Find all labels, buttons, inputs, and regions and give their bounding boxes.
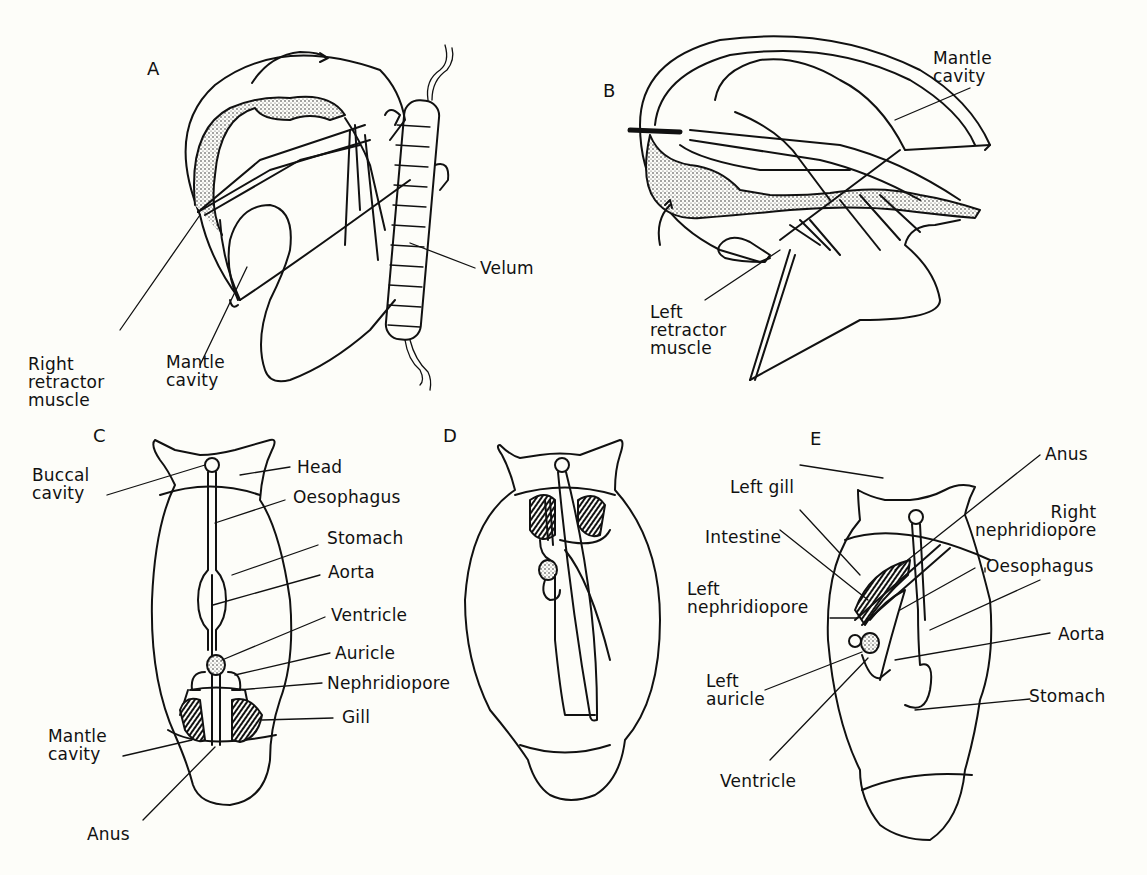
panel-d-drawing [465,440,660,800]
label-c-buccal-cavity: Buccal cavity [32,466,89,502]
label-e-left-gill: Left gill [730,478,794,496]
label-c-ventricle: Ventricle [331,606,407,624]
diagram-artwork [0,0,1147,875]
label-a-mantle-cavity: Mantle cavity [166,353,225,389]
label-e-right-nephridiopore: Right nephridiopore [975,503,1096,539]
label-e-aorta: Aorta [1058,625,1105,643]
label-a-velum: Velum [480,259,534,277]
label-c-head: Head [297,458,342,476]
label-c-oesophagus: Oesophagus [293,488,401,506]
label-e-ventricle: Ventricle [720,772,796,790]
label-e-intestine: Intestine [705,528,781,546]
label-e-anus: Anus [1045,445,1088,463]
label-c-anus: Anus [87,825,130,843]
panel-label-d: D [443,427,457,445]
label-e-oesophagus: Oesophagus [986,557,1094,575]
panel-label-a: A [147,60,160,78]
label-c-auricle: Auricle [335,644,395,662]
label-c-stomach: Stomach [327,529,403,547]
label-b-left-retractor-muscle: Left retractor muscle [650,303,726,357]
label-e-left-auricle: Left auricle [706,672,765,708]
label-c-gill: Gill [342,708,370,726]
label-b-mantle-cavity: Mantle cavity [933,49,992,85]
label-e-stomach: Stomach [1029,687,1105,705]
label-c-mantle-cavity: Mantle cavity [48,727,107,763]
label-c-nephridiopore: Nephridiopore [327,674,450,692]
panel-label-b: B [603,82,616,100]
panel-a-drawing [120,45,475,390]
label-a-right-retractor-muscle: Right retractor muscle [28,355,104,409]
panel-label-c: C [93,427,106,445]
label-e-left-nephridiopore: Left nephridiopore [687,580,808,616]
panel-label-e: E [810,430,822,448]
label-c-aorta: Aorta [328,563,375,581]
